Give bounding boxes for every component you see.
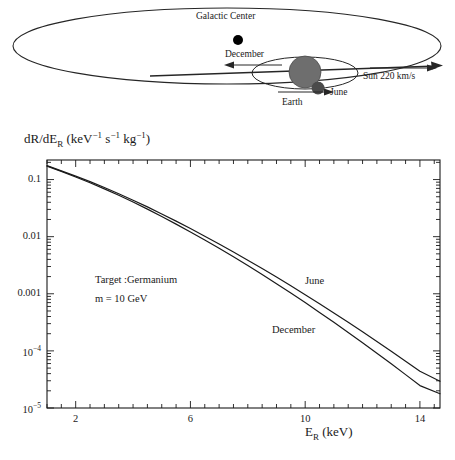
y-tick-label: 0.001 xyxy=(1,287,41,298)
sun-velocity-label: Sun 220 km/s xyxy=(363,72,415,82)
galaxy-schematic-diagram: Galactic Center December Earth June Sun … xyxy=(0,0,455,125)
y-tick-label: 0.01 xyxy=(1,230,41,241)
curve-label-december: December xyxy=(272,325,315,336)
y-tick-label: 10−4 xyxy=(1,344,41,358)
x-axis-title-sub: R xyxy=(313,432,319,442)
y-tick-label-exponent: −5 xyxy=(33,401,41,410)
earth-body xyxy=(312,82,325,95)
galactic-center-dot xyxy=(233,35,243,45)
x-axis-title-unit: (keV) xyxy=(322,424,352,439)
december-direction-label: December xyxy=(225,50,264,60)
x-tick-label: 6 xyxy=(178,413,202,424)
galactic-center-label: Galactic Center xyxy=(196,12,255,22)
recoil-spectrum-plot xyxy=(0,125,455,460)
y-tick-label-base: 0.1 xyxy=(28,173,41,184)
annotation-target: Target :Germanium xyxy=(95,274,177,285)
x-tick-label: 10 xyxy=(293,413,317,424)
december-arrowhead xyxy=(224,62,234,69)
y-tick-label-exponent: −4 xyxy=(33,344,41,353)
earth-label: Earth xyxy=(282,98,303,108)
y-tick-label: 10−5 xyxy=(1,401,41,415)
curve-label-june: June xyxy=(305,276,324,287)
annotation-mass: m = 10 GeV xyxy=(95,293,147,304)
x-tick-label: 14 xyxy=(408,413,432,424)
y-tick-label: 0.1 xyxy=(1,173,41,184)
y-tick-label-base: 10 xyxy=(23,346,34,357)
x-tick-label: 2 xyxy=(64,413,88,424)
y-tick-label-base: 0.001 xyxy=(17,287,41,298)
plot-svg xyxy=(0,125,455,460)
y-tick-label-base: 0.01 xyxy=(23,230,41,241)
june-direction-label: June xyxy=(330,88,347,98)
x-axis-title-main: E xyxy=(305,424,313,439)
x-axis-title: ER (keV) xyxy=(305,425,353,442)
figure-root: Galactic Center December Earth June Sun … xyxy=(0,0,455,460)
y-tick-label-base: 10 xyxy=(23,404,34,415)
